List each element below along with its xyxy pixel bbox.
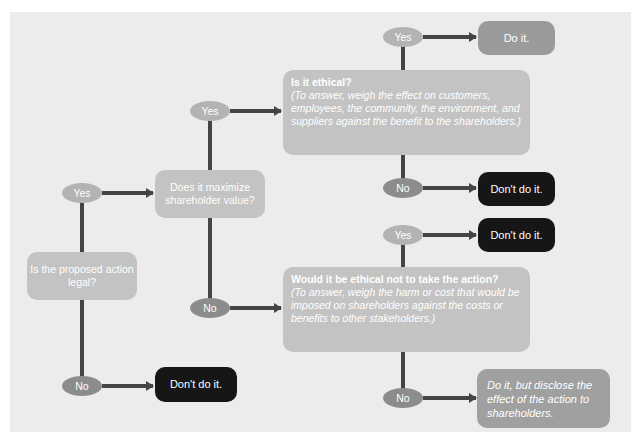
node-maximize-text: Does it maximize shareholder value? [155, 181, 265, 207]
node-ethical-note: (To answer, weigh the effect on customer… [291, 89, 522, 128]
node-ethical-not: Would it be ethical not to take the acti… [283, 267, 530, 352]
node-ethical-not-heading: Would it be ethical not to take the acti… [291, 273, 522, 286]
outcome-ethical-no: Don't do it. [478, 172, 555, 206]
node-ethical-not-note: (To answer, weigh the harm or cost that … [291, 286, 522, 325]
yes-text: Yes [201, 105, 218, 117]
yes-text: Yes [394, 31, 411, 43]
outcome-ethical-not-no: Do it, but disclose the effect of the ac… [477, 369, 610, 428]
outcome-ethical-yes: Do it. [478, 21, 555, 55]
maximize-yes-label: Yes [190, 101, 230, 121]
outcome-ethical-not-no-text: Do it, but disclose the effect of the ac… [487, 378, 600, 420]
ethical-not-yes-label: Yes [383, 225, 423, 245]
outcome-legal-no: Don't do it. [155, 367, 237, 402]
ethical-not-no-label: No [383, 388, 423, 408]
node-ethical: Is it ethical? (To answer, weigh the eff… [283, 70, 530, 155]
legal-no-label: No [62, 376, 102, 396]
maximize-no-label: No [190, 298, 230, 318]
no-text: No [203, 302, 216, 314]
outcome-ethical-not-yes: Don't do it. [478, 218, 555, 252]
node-ethical-heading: Is it ethical? [291, 76, 522, 89]
no-text: No [396, 182, 409, 194]
no-text: No [396, 392, 409, 404]
outcome-ethical-not-yes-text: Don't do it. [490, 229, 542, 242]
no-text: No [75, 380, 88, 392]
ethical-no-label: No [383, 178, 423, 198]
node-maximize: Does it maximize shareholder value? [155, 170, 265, 218]
node-legal-text: Is the proposed action legal? [27, 263, 137, 289]
legal-yes-label: Yes [62, 183, 102, 203]
outcome-ethical-yes-text: Do it. [504, 32, 530, 45]
outcome-ethical-no-text: Don't do it. [490, 183, 542, 196]
ethical-yes-label: Yes [383, 27, 423, 47]
node-legal: Is the proposed action legal? [27, 252, 137, 300]
yes-text: Yes [73, 187, 90, 199]
yes-text: Yes [394, 229, 411, 241]
outcome-legal-no-text: Don't do it. [170, 378, 222, 391]
